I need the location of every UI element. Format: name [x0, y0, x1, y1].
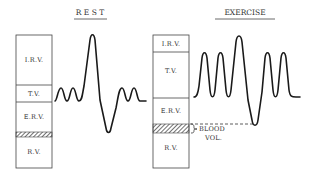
rest-title: R E S T: [76, 8, 104, 17]
lung-volumes-diagram: R E S T I.R.V. T.V. E.R.V. R.V. EXERCISE…: [0, 0, 312, 179]
rest-tv-label: T.V.: [28, 90, 40, 98]
rest-spirogram-waveform: [55, 35, 146, 133]
exercise-panel: EXERCISE I.R.V. T.V. E.R.V. R.V. BLOOD V…: [153, 8, 300, 168]
rest-panel: R E S T I.R.V. T.V. E.R.V. R.V.: [16, 8, 146, 168]
exercise-spirogram-waveform: [194, 36, 300, 125]
blood-volume-label-line1: BLOOD: [199, 125, 225, 133]
exercise-tv-label: T.V.: [165, 67, 177, 75]
blood-volume-label-line2: VOL.: [204, 134, 222, 142]
exercise-title: EXERCISE: [224, 8, 265, 17]
exercise-rv-label: R.V.: [164, 144, 177, 152]
exercise-volume-box: I.R.V. T.V. E.R.V. R.V.: [153, 35, 189, 168]
exercise-irv-label: I.R.V.: [162, 40, 180, 48]
exercise-erv-label: E.R.V.: [161, 107, 182, 115]
rest-rv-label: R.V.: [27, 148, 40, 156]
rest-erv-label: E.R.V.: [24, 113, 45, 121]
rest-irv-label: I.R.V.: [25, 56, 43, 64]
blood-volume-bracket-icon: [191, 124, 197, 133]
exercise-blood-volume-segment: [153, 124, 189, 133]
rest-blood-volume-segment: [16, 132, 52, 137]
rest-volume-box: I.R.V. T.V. E.R.V. R.V.: [16, 35, 52, 168]
